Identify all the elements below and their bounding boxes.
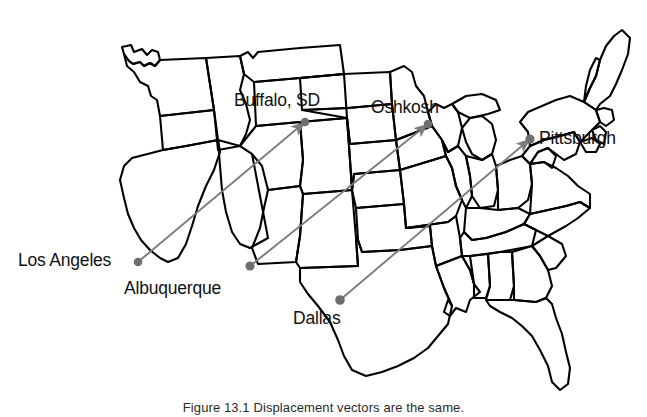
city-label-buffalo-sd: Buffalo, SD [234, 92, 320, 110]
city-label-albuquerque: Albuquerque [124, 280, 221, 298]
marker-los-angeles [134, 258, 143, 267]
marker-albuquerque [245, 261, 254, 270]
figure-caption-text: Figure 13.1 Displacement vectors are the… [183, 400, 464, 415]
city-label-pittsburgh: Pittsburgh [539, 130, 616, 148]
figure-canvas: Los Angeles Albuquerque Dallas Buffalo, … [0, 0, 647, 417]
marker-buffalo-sd [301, 118, 310, 127]
marker-oshkosh [424, 120, 433, 129]
state-borders [120, 30, 630, 390]
city-label-dallas: Dallas [293, 310, 340, 328]
vector-dallas-to-pittsburgh [340, 139, 530, 300]
city-label-oshkosh: Oshkosh [371, 99, 439, 117]
marker-dallas [335, 295, 345, 305]
marker-pittsburgh [525, 134, 534, 143]
city-label-los-angeles: Los Angeles [18, 252, 111, 270]
figure-caption: Figure 13.1 Displacement vectors are the… [0, 398, 647, 417]
city-markers [134, 118, 535, 305]
us-map-svg [0, 0, 647, 417]
